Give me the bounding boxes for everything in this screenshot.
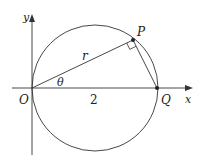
point-p-label: P (136, 25, 146, 39)
point-q (155, 86, 159, 90)
point-p (131, 38, 135, 42)
segment-oq-label: 2 (90, 93, 98, 107)
y-axis-arrow-icon (29, 14, 35, 22)
polar-circle-diagram: y x O P Q r θ 2 (0, 0, 205, 161)
radius-label: r (82, 49, 89, 63)
y-axis-label: y (22, 11, 30, 24)
angle-theta-label: θ (57, 76, 64, 89)
x-axis-label: x (185, 93, 192, 106)
origin-label: O (19, 93, 29, 107)
point-q-label: Q (161, 93, 171, 107)
x-axis-arrow-icon (185, 85, 193, 91)
